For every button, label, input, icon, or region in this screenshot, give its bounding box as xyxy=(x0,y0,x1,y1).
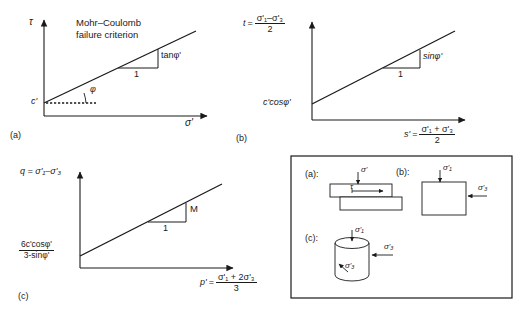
panel-b-intercept-label: c'cosφ' xyxy=(263,98,291,107)
panel-c-x-symbol: p' xyxy=(200,278,207,287)
panel-b-y-equals: = xyxy=(248,19,253,28)
panel-c-intercept-label: 6c'cosφ' 3-sinφ' xyxy=(19,240,54,261)
panel-b-x-numerator: σ'₁ + σ'₃ xyxy=(419,124,455,135)
panel-b-x-denominator: 2 xyxy=(419,135,455,145)
panel-a-y-axis-label: τ xyxy=(29,17,33,27)
panel-c-x-denominator: 3 xyxy=(216,283,257,293)
panel-b-slope-run-label: 1 xyxy=(398,70,403,79)
inset-border xyxy=(291,156,512,298)
panel-b-x-symbol: s' xyxy=(404,130,410,139)
panel-c-failure-line xyxy=(80,184,222,256)
inset-item-c-lateral-stress-label: σ'₃ xyxy=(384,243,394,251)
inset-item-c-lateral-stress-2-label: σ'₃ xyxy=(345,262,355,270)
inset-item-c-vertical-stress-label: σ'₁ xyxy=(355,226,364,234)
panel-a-title: Mohr–Coulomb failure criterion xyxy=(76,17,141,41)
panel-a-title-line1: Mohr–Coulomb xyxy=(76,17,141,28)
inset-item-a-vertical-stress-label: σ' xyxy=(361,166,367,174)
panel-b-slope-rise-label: sinφ' xyxy=(423,52,442,61)
panel-a-angle-label: φ xyxy=(90,85,96,94)
panel-a-x-axis-label: σ' xyxy=(185,118,193,128)
panel-a-slope-run-label: 1 xyxy=(134,70,139,79)
panel-b-y-denominator: 2 xyxy=(255,24,285,34)
figure-canvas: τ σ' Mohr–Coulomb failure criterion c' t… xyxy=(0,0,518,321)
panel-c-x-axis-label: p' = σ'₁ + 2σ'₃ 3 xyxy=(200,272,257,294)
panel-c-slope-rise-label: M xyxy=(190,204,198,214)
inset-item-b-vertical-stress-label: σ'₁ xyxy=(443,164,452,172)
panel-c-x-numerator: σ'₁ + 2σ'₃ xyxy=(216,272,257,283)
inset-item-a-shear-stress-label: τ xyxy=(350,183,353,191)
panel-a-intercept-label: c' xyxy=(31,97,37,106)
panel-c-axes xyxy=(80,172,233,268)
inset-item-b-lateral-stress-label: σ'₃ xyxy=(478,184,488,192)
panel-a-angle-arc xyxy=(84,93,86,103)
panel-b-axes xyxy=(312,22,465,120)
panel-c-slope-run-label: 1 xyxy=(163,224,168,233)
panel-c-intercept-denominator: 3-sinφ' xyxy=(19,251,54,261)
inset-item-c-letter: (c): xyxy=(305,234,318,243)
diagram-svg xyxy=(0,0,518,321)
inset-item-b-letter: (b): xyxy=(396,168,410,177)
panel-b-letter: (b) xyxy=(236,134,247,143)
panel-b-x-equals: = xyxy=(412,130,417,139)
panel-c-x-equals: = xyxy=(209,278,214,287)
panel-a-title-line2: failure criterion xyxy=(76,29,138,40)
panel-a-failure-line xyxy=(44,31,196,103)
panel-b-y-numerator: σ'₁–σ'₃ xyxy=(255,13,285,24)
panel-b-y-axis-label: t = σ'₁–σ'₃ 2 xyxy=(243,13,285,35)
panel-c-letter: (c) xyxy=(18,292,29,301)
panel-a-letter: (a) xyxy=(10,131,21,140)
panel-b-x-axis-label: s' = σ'₁ + σ'₃ 2 xyxy=(404,124,455,146)
panel-b-y-symbol: t xyxy=(243,19,246,28)
inset-item-a-letter: (a): xyxy=(305,170,319,179)
panel-a-slope-rise-label: tanφ' xyxy=(161,51,181,60)
panel-c-y-axis-label: q = σ'₁–σ'₃ xyxy=(20,167,61,176)
